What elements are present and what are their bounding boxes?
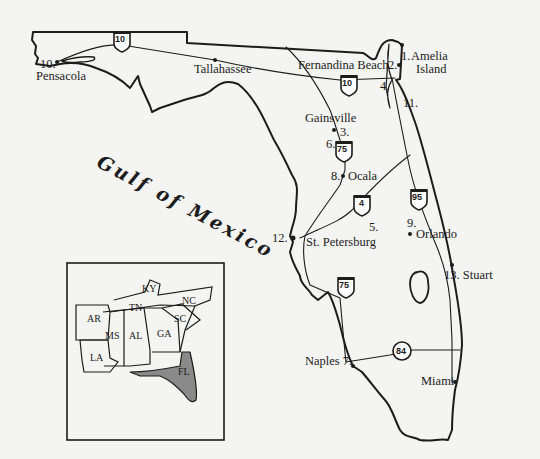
label-ocala: Ocala — [348, 170, 377, 183]
i10-east-number: 10 — [342, 78, 352, 88]
i75-north-number: 75 — [337, 144, 347, 154]
inset-al: AL — [129, 330, 142, 341]
label-miami: Miami — [421, 375, 454, 388]
i95-number: 95 — [412, 192, 422, 202]
label-8: 8. — [331, 170, 340, 183]
label-5: 5. — [369, 221, 378, 234]
label-9: 9. — [407, 217, 416, 230]
label-naples: Naples 7. — [305, 355, 352, 368]
label-island: Island — [416, 63, 447, 76]
label-amelia-1: 1. — [401, 50, 410, 63]
label-6: 6. — [326, 138, 335, 151]
label-tallahassee: Tallahassee — [194, 63, 251, 76]
i4-number: 4 — [359, 198, 364, 208]
label-orlando: Orlando — [416, 228, 457, 241]
inset-ky: KY — [142, 283, 156, 294]
label-11: 11. — [403, 97, 418, 110]
label-stpete: St. Petersburg — [306, 236, 376, 249]
sr84-number: 84 — [396, 346, 406, 356]
i10-west-number: 10 — [115, 34, 125, 44]
label-3: 3. — [340, 126, 349, 139]
label-pensacola: Pensacola — [36, 70, 86, 83]
inset-ar: AR — [87, 313, 101, 324]
label-2: 2. — [388, 59, 397, 72]
label-gainesville: Gainsville — [305, 112, 356, 125]
i75-south-number: 75 — [339, 280, 349, 290]
inset-ga: GA — [157, 328, 171, 339]
label-12: 12. — [272, 232, 288, 245]
inset-tn: TN — [129, 302, 142, 313]
inset-nc: NC — [182, 295, 196, 306]
inset-ms: MS — [105, 330, 119, 341]
lake-okeechobee — [410, 271, 429, 303]
inset-sc: SC — [174, 313, 186, 324]
inset-la: LA — [90, 352, 103, 363]
florida-map: Gulf of Mexico 10. Pensacola Tallahassee… — [0, 0, 540, 459]
label-stuart: 13. Stuart — [444, 269, 493, 282]
label-4: 4. — [380, 80, 389, 93]
label-fernandina: Fernandina Beach — [298, 59, 389, 72]
inset-fl: FL — [178, 366, 190, 377]
